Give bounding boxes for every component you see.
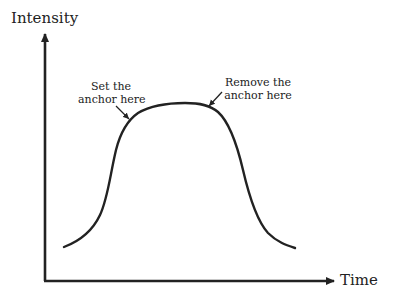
set-anchor-annotation: Set the anchor here (78, 80, 144, 106)
x-axis-label: Time (340, 273, 378, 288)
set-anchor-arrow (116, 106, 129, 119)
remove-anchor-annotation: Remove the anchor here (222, 76, 294, 102)
set-anchor-line2: anchor here (78, 93, 144, 106)
y-axis-label: Intensity (11, 11, 78, 26)
intensity-curve (64, 103, 295, 248)
set-anchor-line1: Set the (78, 80, 144, 93)
intensity-time-diagram: Intensity Time Set the anchor here Remov… (0, 0, 395, 304)
diagram-canvas (0, 0, 395, 304)
remove-anchor-arrow (209, 92, 222, 106)
remove-anchor-line2: anchor here (222, 89, 294, 102)
remove-anchor-line1: Remove the (222, 76, 294, 89)
